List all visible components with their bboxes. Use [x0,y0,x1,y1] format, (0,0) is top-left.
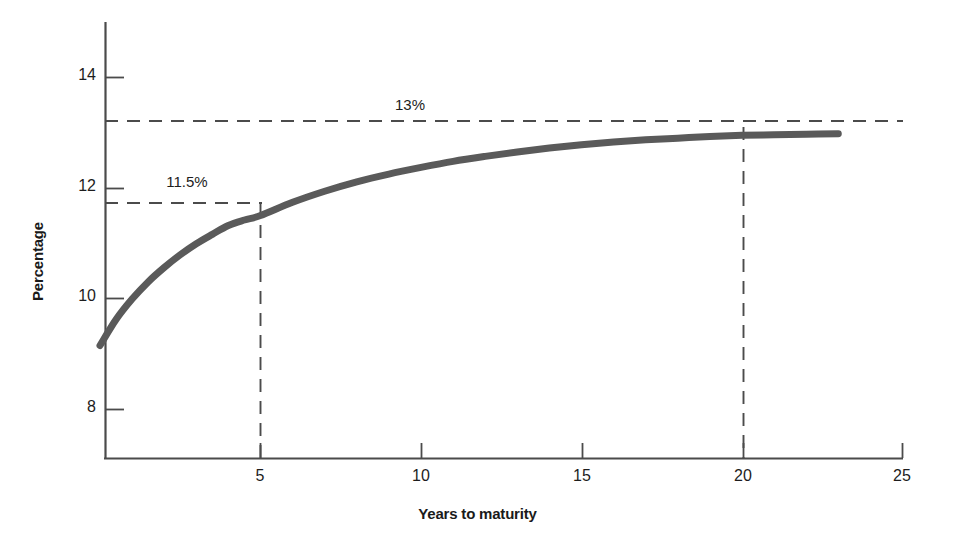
yield-curve-chart: 14 12 10 8 5 10 15 20 25 13% 11.5% Perce… [0,0,955,539]
x-axis-ticks [261,443,903,458]
y-tick-label-12: 12 [56,177,96,195]
annotation-label-13-percent: 13% [380,96,440,113]
x-axis-title: Years to maturity [0,505,955,522]
x-tick-label-10: 10 [399,467,443,485]
yield-curve-line [100,134,838,346]
y-tick-label-10: 10 [56,287,96,305]
annotation-label-11-5-percent: 11.5% [148,173,226,190]
y-tick-label-8: 8 [56,398,96,416]
y-axis-ticks [105,78,124,410]
x-tick-label-15: 15 [560,467,604,485]
y-axis-title: Percentage [26,196,48,326]
y-tick-label-14: 14 [56,66,96,84]
x-tick-label-25: 25 [880,467,924,485]
y-axis-title-text: Percentage [29,222,46,301]
x-tick-label-5: 5 [238,467,282,485]
x-tick-label-20: 20 [721,467,765,485]
plot-area [0,0,955,539]
